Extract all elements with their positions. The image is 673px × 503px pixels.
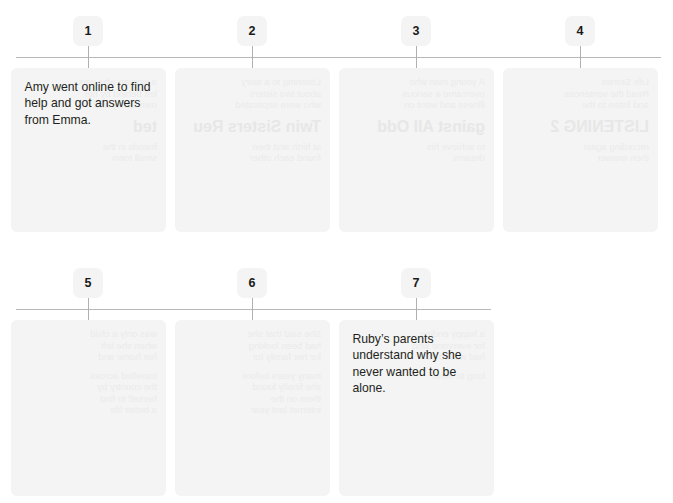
step-number-badge-7: 7 xyxy=(401,268,431,298)
ghost-line: the country by xyxy=(20,381,157,393)
step-number-badge-3: 3 xyxy=(401,16,431,46)
step-marker-7: 7 xyxy=(401,268,431,298)
timeline-row-1: 1a woman who wasleft behind by herown fa… xyxy=(0,0,673,252)
ghost-line: overcame a serious xyxy=(348,88,485,100)
step-number-badge-6: 6 xyxy=(237,268,267,298)
ghost-line: many years before xyxy=(184,370,321,382)
step-marker-4: 4 xyxy=(565,16,595,46)
answer-card-text-7: Ruby’s parents understand why she never … xyxy=(339,320,494,397)
ghost-line: illness and went on xyxy=(348,99,485,111)
ghost-heading: gainst All Odd xyxy=(348,117,485,137)
answer-card-2[interactable]: Listening to a storyabout two sisterswho… xyxy=(175,68,330,232)
ghost-line: A young man who xyxy=(348,76,485,88)
ghost-line: dreams xyxy=(348,152,485,164)
ghost-line: her home and xyxy=(20,351,157,363)
bleed-through-ghost-text: Life StoriesRead the sentencesand listen… xyxy=(503,68,658,232)
answer-card-4[interactable]: Life StoriesRead the sentencesand listen… xyxy=(503,68,658,232)
timeline-row-2: 5was only a childwhen she lefther home a… xyxy=(0,252,673,503)
answer-card-1[interactable]: a woman who wasleft behind by herown fam… xyxy=(11,68,166,232)
ghost-line: She said that she xyxy=(184,328,321,340)
ghost-heading: LISTENING 2 xyxy=(512,117,649,137)
step-marker-1: 1 xyxy=(73,16,103,46)
ghost-line: them on the xyxy=(184,393,321,405)
answer-card-3[interactable]: A young man whoovercame a seriousillness… xyxy=(339,68,494,232)
ghost-line: travelled across xyxy=(20,370,157,382)
answer-card-text-1: Amy went online to find help and got ans… xyxy=(11,68,166,128)
step-marker-2: 2 xyxy=(237,16,267,46)
step-number-badge-2: 2 xyxy=(237,16,267,46)
ghost-line: friends in the xyxy=(20,141,157,153)
step-number-badge-1: 1 xyxy=(73,16,103,46)
timeline-exercise: 1a woman who wasleft behind by herown fa… xyxy=(0,0,673,503)
ghost-line: who were separated xyxy=(184,99,321,111)
ghost-line: internet last year xyxy=(184,404,321,416)
ghost-line: was only a child xyxy=(20,328,157,340)
timeline-axis-rule xyxy=(16,57,661,58)
ghost-line: Life Stories xyxy=(512,76,649,88)
ghost-line: to achieve his xyxy=(348,141,485,153)
bleed-through-ghost-text: She said that shehad been lookingfor her… xyxy=(175,320,330,496)
ghost-spacer xyxy=(184,363,321,370)
ghost-line: she finally found xyxy=(184,381,321,393)
answer-card-6[interactable]: She said that shehad been lookingfor her… xyxy=(175,320,330,496)
ghost-line: Read the sentences xyxy=(512,88,649,100)
ghost-line: at birth and then xyxy=(184,141,321,153)
ghost-line: when she left xyxy=(20,340,157,352)
ghost-line: recording again xyxy=(512,141,649,153)
ghost-line: small town xyxy=(20,152,157,164)
bleed-through-ghost-text: was only a childwhen she lefther home an… xyxy=(11,320,166,496)
step-number-badge-5: 5 xyxy=(73,268,103,298)
ghost-line: about two sisters xyxy=(184,88,321,100)
step-marker-5: 5 xyxy=(73,268,103,298)
ghost-spacer xyxy=(20,363,157,370)
answer-card-7[interactable]: a happy endingfor everyone whohad waited… xyxy=(339,320,494,496)
ghost-line: Listening to a story xyxy=(184,76,321,88)
ghost-line: a better life xyxy=(20,404,157,416)
bleed-through-ghost-text: Listening to a storyabout two sisterswho… xyxy=(175,68,330,232)
answer-card-5[interactable]: was only a childwhen she lefther home an… xyxy=(11,320,166,496)
ghost-line: found each other xyxy=(184,152,321,164)
ghost-line: herself to find xyxy=(20,393,157,405)
ghost-line: had been looking xyxy=(184,340,321,352)
bleed-through-ghost-text: A young man whoovercame a seriousillness… xyxy=(339,68,494,232)
ghost-line: and listen to the xyxy=(512,99,649,111)
ghost-heading: Twin Sisters Reu xyxy=(184,117,321,137)
step-number-badge-4: 4 xyxy=(565,16,595,46)
step-marker-3: 3 xyxy=(401,16,431,46)
step-marker-6: 6 xyxy=(237,268,267,298)
ghost-line: then answer xyxy=(512,152,649,164)
ghost-line: for her family for xyxy=(184,351,321,363)
